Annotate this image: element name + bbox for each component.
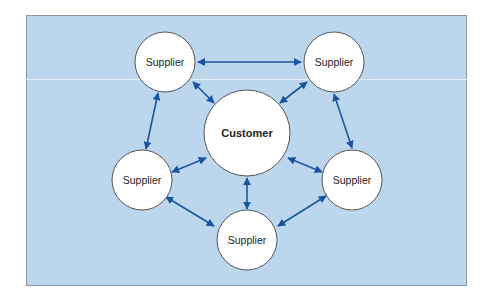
- supplier-label: Supplier: [123, 174, 162, 186]
- node-supplier-right: Supplier: [322, 150, 382, 210]
- node-supplier-bottom: Supplier: [217, 210, 277, 270]
- arrow-left-topleft: [146, 93, 158, 149]
- arrow-customer-topleft: [193, 82, 214, 103]
- arrow-right-bottom: [278, 196, 326, 226]
- node-supplier-top-left: Supplier: [135, 32, 195, 92]
- supplier-label: Supplier: [315, 56, 354, 68]
- supplier-label: Supplier: [146, 56, 185, 68]
- node-supplier-left: Supplier: [112, 150, 172, 210]
- supplier-label: Supplier: [228, 234, 267, 246]
- node-customer: Customer: [204, 90, 290, 176]
- arrow-customer-topright: [280, 82, 307, 103]
- arrow-bottom-left: [166, 197, 214, 226]
- arrow-customer-left: [172, 158, 206, 172]
- arrow-customer-right: [288, 158, 322, 172]
- supplier-network-diagram: Customer Supplier Supplier Supplier Supp…: [0, 0, 491, 302]
- supplier-label: Supplier: [333, 174, 372, 186]
- customer-label: Customer: [221, 127, 273, 139]
- node-supplier-top-right: Supplier: [304, 32, 364, 92]
- arrow-topright-right: [334, 94, 352, 148]
